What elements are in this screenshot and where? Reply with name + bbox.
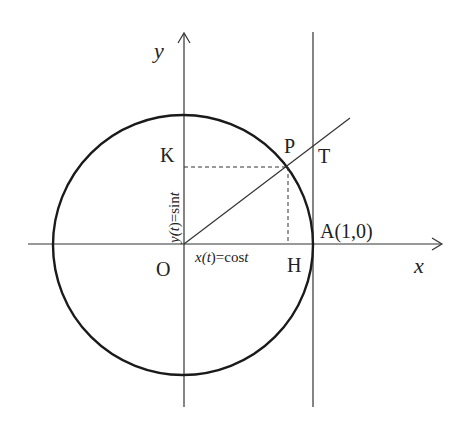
unit-circle bbox=[53, 115, 313, 375]
point-label-p: P bbox=[284, 135, 295, 157]
point-label-a: A(1,0) bbox=[320, 220, 373, 243]
point-label-h: H bbox=[287, 254, 301, 276]
y-axis-label: y bbox=[152, 38, 164, 63]
cos-label: x(t)=cost bbox=[194, 249, 249, 266]
x-axis-label: x bbox=[413, 253, 424, 278]
point-label-t: T bbox=[318, 145, 330, 167]
sin-label: y(t)=sint bbox=[166, 191, 183, 245]
unit-circle-diagram: y x K P T O H A(1,0) x(t)=cost y(t)=sint bbox=[0, 0, 467, 427]
point-label-k: K bbox=[160, 144, 175, 166]
point-label-o: O bbox=[156, 258, 170, 280]
